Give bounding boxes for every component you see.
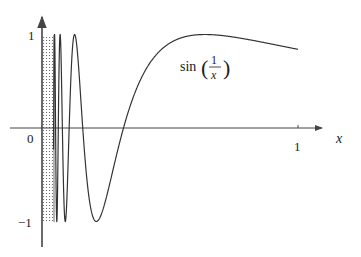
sin-1-over-x-chart: 1 −1 0 1 x sin ( 1 x ) [0, 0, 361, 257]
svg-text:sin: sin [180, 59, 196, 74]
svg-text:(: ( [201, 55, 208, 80]
function-label: sin ( 1 x ) [180, 53, 230, 82]
y-tick-label-neg1: −1 [18, 215, 32, 230]
x-tick-label-1: 1 [294, 139, 301, 154]
x-tick-label-0: 0 [27, 131, 34, 146]
x-axis-label: x [335, 131, 343, 146]
svg-text:1: 1 [211, 53, 217, 67]
svg-text:): ) [223, 55, 230, 80]
y-tick-label-1: 1 [28, 28, 35, 43]
svg-text:x: x [210, 68, 217, 82]
